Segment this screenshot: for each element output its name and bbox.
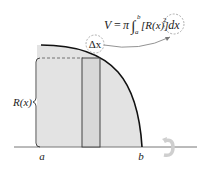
rotation-arrow-icon	[162, 137, 173, 155]
formula-differential: dx	[168, 18, 180, 32]
formula-exponent: 2	[163, 16, 167, 24]
formula-lower-limit: a	[135, 28, 139, 36]
disk-method-diagram: Δx V = π ∫ b a [R(x)] 2 dx R(x) a b	[0, 0, 205, 174]
delta-x-label: Δx	[89, 38, 102, 50]
diagram-canvas: Δx V = π ∫ b a [R(x)] 2 dx R(x) a b	[0, 0, 205, 174]
formula-pi: π	[123, 18, 130, 32]
radius-label: R(x)	[12, 96, 32, 109]
slice-rectangle	[82, 58, 100, 147]
right-bound-label: b	[138, 150, 144, 162]
formula-equals: =	[114, 18, 121, 32]
left-bound-label: a	[39, 150, 45, 162]
delta-to-dx-arrow	[104, 37, 170, 47]
formula-lhs: V	[104, 18, 113, 32]
